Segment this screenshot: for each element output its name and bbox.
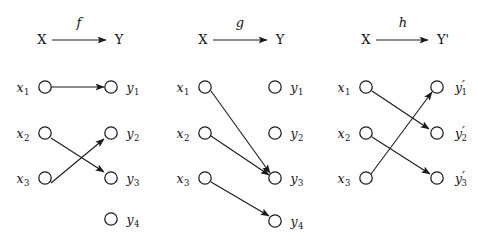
panel-h-domain-nodes: x1 x2 x3 [338,80,373,188]
node-label-g-x2: x2 [177,126,190,143]
node-label-h-y3-prime: y′3 [454,169,467,188]
node-g-x1[interactable] [199,81,211,93]
node-x3[interactable] [39,172,51,184]
node-g-y3[interactable] [269,172,281,184]
node-g-y1[interactable] [269,81,281,93]
node-label-h-x2: x2 [338,126,351,143]
node-label-y3: y3 [126,171,140,188]
panel-f-codomain-label: Y [114,32,124,47]
edge-h-x2-to-y3p [372,137,430,174]
panel-g-header: X g Y [198,15,284,47]
edge-h-x1-to-y2p [372,91,429,129]
node-h-y3-prime[interactable] [431,172,443,184]
panel-g-codomain-nodes: y1 y2 y3 y4 [269,80,304,231]
panel-h: X h Y' x1 x2 x [338,15,467,188]
panel-g-domain-nodes: x1 x2 x3 [177,80,212,188]
node-label-y2: y2 [126,126,140,143]
panel-g-edges [211,91,270,216]
panel-g-map-label: g [236,15,244,30]
function-diagram-figure: Y ---------- --> X f Y x1 x2 x3 [0,0,478,249]
panel-f-codomain-nodes: y1 y2 y3 y4 [105,80,140,229]
panel-g: X g Y x1 x2 x3 [177,15,304,231]
node-h-y1-prime[interactable] [431,81,443,93]
node-label-g-y2: y2 [290,126,304,143]
edge-x2-to-y3 [51,138,104,172]
node-label-y4: y4 [126,212,140,229]
panel-f-edges [51,87,104,183]
edge-g-x1-to-y3 [211,91,270,173]
panel-g-domain-label: X [198,32,208,47]
panel-f-header: X f Y [37,15,123,47]
node-label-h-x3: x3 [338,171,351,188]
node-label-g-y1: y1 [290,80,304,97]
node-label-h-x1: x1 [338,80,351,97]
panel-f-domain-label: X [37,32,47,47]
node-label-x3: x3 [17,171,30,188]
node-label-h-y2-prime: y′2 [454,124,467,143]
node-x1[interactable] [39,81,51,93]
node-label-g-y4: y4 [290,214,304,231]
edge-h-x3-to-y1p [371,92,432,174]
panel-h-codomain-nodes: y′1 y′2 y′3 [431,78,467,188]
node-g-y2[interactable] [269,127,281,139]
panel-h-header: X h Y' [361,15,449,47]
node-label-g-x1: x1 [177,80,190,97]
panel-g-codomain-label: Y [275,32,285,47]
node-label-g-x3: x3 [177,171,190,188]
node-g-x2[interactable] [199,127,211,139]
node-g-x3[interactable] [199,172,211,184]
panel-f-map-label: f [76,15,84,30]
panel-f-domain-nodes: x1 x2 x3 [17,80,52,188]
panel-f: Y ---------- --> X f Y x1 x2 x3 [0,0,478,249]
node-label-g-y3: y3 [290,171,304,188]
node-y4[interactable] [105,213,117,225]
panel-h-edges [371,91,432,174]
panel-h-domain-label: X [361,32,371,47]
node-x2[interactable] [39,127,51,139]
edge-x3-to-y2 [51,139,104,183]
node-h-x1[interactable] [360,81,372,93]
node-label-x2: x2 [17,126,30,143]
panel-h-codomain-label: Y' [436,32,449,47]
node-y2[interactable] [105,127,117,139]
node-h-x2[interactable] [360,127,372,139]
node-y1[interactable] [105,81,117,93]
node-label-x1: x1 [17,80,30,97]
edge-g-x3-to-y4 [211,182,269,216]
edge-g-x2-to-y3 [211,136,269,175]
node-y3[interactable] [105,172,117,184]
node-h-y2-prime[interactable] [431,127,443,139]
panel-h-map-label: h [399,15,407,30]
node-g-y4[interactable] [269,215,281,227]
node-h-x3[interactable] [360,172,372,184]
node-label-h-y1-prime: y′1 [454,78,467,97]
node-label-y1: y1 [126,80,140,97]
